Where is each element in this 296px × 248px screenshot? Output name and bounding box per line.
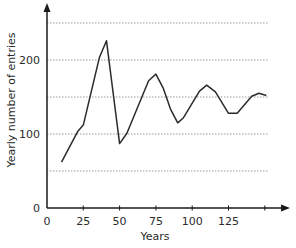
y-tick-label: 200 bbox=[19, 54, 40, 67]
line-chart: 0255075100125 0100200 Years Yearly numbe… bbox=[0, 0, 296, 248]
x-ticks: 0255075100125 bbox=[44, 206, 265, 229]
gridlines bbox=[47, 23, 268, 171]
x-tick-label: 100 bbox=[182, 215, 203, 228]
data-line bbox=[62, 41, 267, 162]
y-tick-label: 100 bbox=[19, 128, 40, 141]
y-axis-arrow-icon bbox=[44, 3, 51, 12]
y-ticks: 0100200 bbox=[19, 54, 40, 215]
y-axis-label: Yearly number of entries bbox=[5, 32, 18, 168]
x-tick-label: 125 bbox=[218, 215, 239, 228]
y-tick-label: 0 bbox=[33, 202, 40, 215]
x-tick-label: 0 bbox=[44, 215, 51, 228]
x-axis-arrow-icon bbox=[281, 205, 290, 212]
x-tick-label: 50 bbox=[113, 215, 127, 228]
x-tick-label: 75 bbox=[149, 215, 163, 228]
x-axis-label: Years bbox=[139, 230, 169, 243]
x-tick-label: 25 bbox=[76, 215, 90, 228]
axes bbox=[44, 3, 291, 212]
